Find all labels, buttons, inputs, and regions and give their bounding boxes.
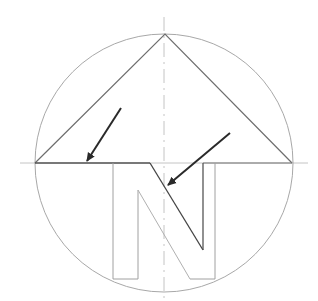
pointer-arrow-left — [87, 108, 121, 161]
pointer-arrow-right — [168, 133, 230, 185]
north-arrow-diagram — [0, 0, 318, 301]
